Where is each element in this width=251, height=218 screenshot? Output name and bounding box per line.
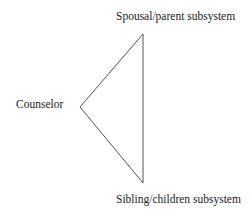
edge-counselor-spousal	[80, 34, 143, 107]
edge-sibling-counselor	[80, 107, 143, 183]
node-counselor-label: Counselor	[16, 99, 63, 111]
node-sibling-children-label: Sibling/children subsystem	[116, 194, 241, 206]
node-spousal-parent-label: Spousal/parent subsystem	[116, 11, 235, 23]
